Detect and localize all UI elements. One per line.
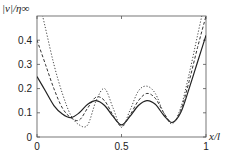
y-axis-label: |v|/η∞ [2, 2, 29, 14]
y-tick-label: 0.4 [18, 35, 32, 46]
x-tick-label: 0.5 [115, 141, 129, 152]
y-tick-label: 0.2 [18, 83, 32, 94]
plot-frame [37, 16, 206, 137]
line-chart: 00.10.20.30.400.51 |v|/η∞ x/l [0, 0, 233, 157]
data-series [37, 0, 206, 127]
series-line-dashed [37, 16, 206, 126]
y-tick-label: 0.3 [18, 59, 32, 70]
plot-axes: 00.10.20.30.400.51 [18, 16, 209, 152]
y-tick-label: 0 [26, 132, 32, 143]
y-tick-label: 0.1 [18, 107, 32, 118]
x-tick-label: 0 [34, 141, 40, 152]
x-axis-label: x/l [208, 130, 220, 142]
x-tick-label: 1 [203, 141, 209, 152]
